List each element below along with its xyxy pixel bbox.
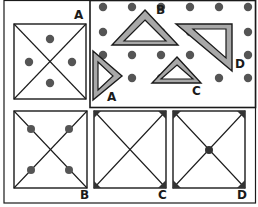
square-a bbox=[14, 24, 86, 99]
label-triangle-a: A bbox=[107, 91, 116, 103]
label-square-d: D bbox=[237, 189, 247, 201]
label-triangle-c: C bbox=[192, 85, 201, 97]
label-square-c: C bbox=[158, 189, 167, 201]
figure-canvas bbox=[0, 0, 258, 207]
label-square-a: A bbox=[74, 9, 83, 21]
label-square-b: B bbox=[80, 189, 89, 201]
square-c bbox=[94, 111, 166, 188]
label-triangle-b: B bbox=[156, 4, 165, 16]
label-triangle-d: D bbox=[235, 58, 245, 70]
puzzle-figure: A B D C A B C D bbox=[0, 0, 258, 207]
square-d bbox=[173, 111, 245, 188]
square-b bbox=[14, 111, 87, 188]
